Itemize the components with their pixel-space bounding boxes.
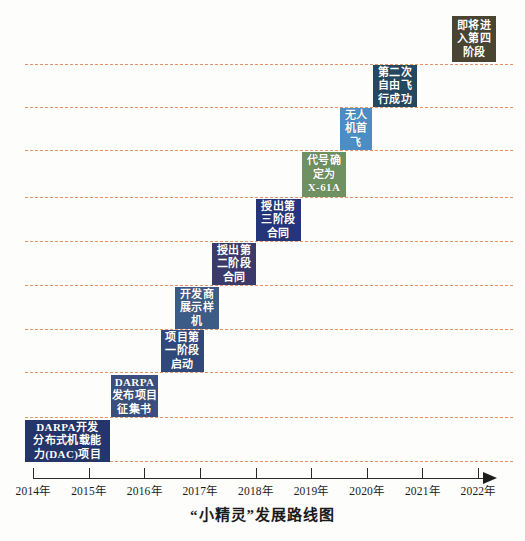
- milestone-2-line-1: DARPA: [115, 376, 155, 389]
- milestone-box-9[interactable]: 第二次自由飞行成功: [373, 65, 417, 107]
- milestone-8-line-2: 机首: [345, 122, 368, 135]
- x-tick-2022: [478, 468, 479, 478]
- milestone-5-line-3: 合同: [223, 271, 246, 284]
- x-tick-2018: [256, 468, 257, 478]
- milestone-box-4[interactable]: 开发商展示样机: [175, 287, 219, 329]
- milestone-6-line-1: 授出第: [261, 200, 295, 213]
- milestone-3-line-2: 一阶段: [165, 344, 199, 357]
- x-tick-label-2016: 2016年: [127, 482, 162, 498]
- milestone-1-line-1: DARPA开发: [36, 421, 98, 434]
- milestone-box-6[interactable]: 授出第三阶段合同: [256, 199, 301, 241]
- milestone-10-line-2: 入第四: [457, 32, 491, 45]
- x-tick-label-2022: 2022年: [461, 482, 496, 498]
- milestone-8-line-1: 无人: [345, 109, 368, 122]
- milestone-9-line-1: 第二次: [378, 66, 412, 79]
- milestone-box-7[interactable]: 代号确定为X-61A: [302, 152, 346, 197]
- milestone-3-line-1: 项目第: [165, 331, 199, 344]
- milestone-7-line-1: 代号确: [307, 154, 341, 167]
- gridline-6: [25, 285, 513, 286]
- milestone-box-5[interactable]: 授出第二阶段合同: [212, 243, 256, 285]
- milestone-3-line-3: 启动: [171, 358, 194, 371]
- x-tick-2019: [311, 468, 312, 478]
- gridline-4: [25, 197, 513, 198]
- roadmap-chart: DARPA开发分布式机载能力(DAC)项目DARPA发布项目征集书项目第一阶段启…: [0, 0, 525, 541]
- x-tick-2017: [200, 468, 201, 478]
- milestone-8-line-3: 飞: [350, 136, 361, 149]
- x-tick-label-2017: 2017年: [182, 482, 217, 498]
- milestone-5-line-1: 授出第: [217, 244, 251, 257]
- milestone-9-line-2: 自由飞: [378, 79, 412, 92]
- x-tick-2016: [144, 468, 145, 478]
- gridline-5: [25, 241, 513, 242]
- x-tick-label-2018: 2018年: [238, 482, 273, 498]
- milestone-5-line-2: 二阶段: [217, 257, 251, 270]
- milestone-2-line-2: 发布项目: [112, 389, 158, 402]
- milestone-2-line-3: 征集书: [117, 403, 151, 416]
- x-tick-2020: [367, 468, 368, 478]
- milestone-box-3[interactable]: 项目第一阶段启动: [161, 330, 204, 372]
- milestone-7-line-3: X-61A: [308, 181, 341, 194]
- x-tick-label-2015: 2015年: [71, 482, 106, 498]
- milestone-6-line-3: 合同: [267, 227, 290, 240]
- chart-title: “小精灵”发展路线图: [0, 503, 525, 524]
- gridline-7: [25, 329, 513, 330]
- x-tick-label-2019: 2019年: [294, 482, 329, 498]
- x-tick-label-2014: 2014年: [16, 482, 51, 498]
- x-tick-2021: [422, 468, 423, 478]
- milestone-box-1[interactable]: DARPA开发分布式机载能力(DAC)项目: [25, 420, 110, 462]
- x-axis-line: [33, 478, 485, 479]
- gridline-3: [25, 150, 513, 151]
- milestone-4-line-2: 展示样: [180, 301, 214, 314]
- milestone-box-10[interactable]: 即将进入第四阶段: [452, 16, 496, 62]
- milestone-1-line-3: 力(DAC)项目: [34, 448, 101, 461]
- x-tick-2014: [33, 468, 34, 478]
- milestone-1-line-2: 分布式机载能: [33, 434, 101, 447]
- milestone-6-line-2: 三阶段: [261, 213, 295, 226]
- milestone-7-line-2: 定为: [313, 168, 336, 181]
- milestone-box-2[interactable]: DARPA发布项目征集书: [111, 375, 158, 417]
- milestone-10-line-1: 即将进: [457, 19, 491, 32]
- x-tick-label-2021: 2021年: [405, 482, 440, 498]
- x-tick-2015: [89, 468, 90, 478]
- x-tick-label-2020: 2020年: [349, 482, 384, 498]
- milestone-10-line-3: 阶段: [463, 46, 486, 59]
- gridline-2: [25, 107, 513, 108]
- gridline-9: [25, 417, 513, 418]
- gridline-8: [25, 372, 513, 373]
- milestone-4-line-3: 机: [191, 315, 202, 328]
- gridline-1: [25, 64, 513, 65]
- milestone-9-line-3: 行成功: [378, 93, 412, 106]
- milestone-box-8[interactable]: 无人机首飞: [340, 108, 372, 150]
- milestone-4-line-1: 开发商: [180, 288, 214, 301]
